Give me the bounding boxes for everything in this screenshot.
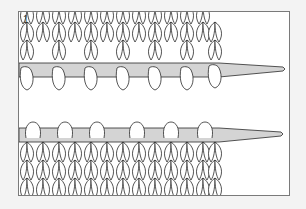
illustration-panel: 1 xyxy=(18,11,290,196)
bottom-fabric xyxy=(20,142,221,196)
top-fabric xyxy=(20,12,221,60)
knitting-illustration xyxy=(19,12,290,196)
step-number: 1 xyxy=(23,14,29,25)
